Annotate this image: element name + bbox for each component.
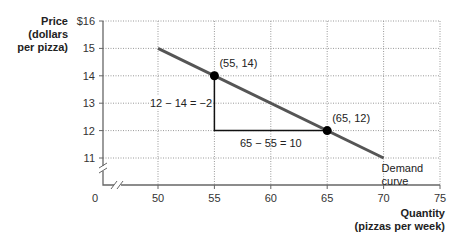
data-point: [210, 71, 219, 80]
x-tick-label: 60: [265, 192, 277, 204]
x-axis-title: Quantity: [400, 207, 445, 219]
data-point: [323, 126, 332, 135]
rise-label: 12 − 14 = −2: [150, 97, 212, 109]
point-label: (55, 14): [219, 57, 257, 69]
origin-label: 0: [92, 192, 98, 204]
y-tick-label: 15: [83, 42, 95, 54]
demand-curve-label: Demand: [382, 162, 424, 174]
y-tick-label: $16: [77, 15, 95, 27]
data-points: (55, 14)(65, 12): [210, 56, 374, 135]
y-tick-label: 12: [83, 125, 95, 137]
x-axis-title: (pizzas per week): [355, 220, 446, 232]
y-axis-title: Price: [41, 15, 68, 27]
x-tick-label: 75: [434, 192, 446, 204]
demand-curve-chart: 1112131415$165055606570750 12 − 14 = −26…: [0, 0, 469, 243]
run-label: 65 − 55 = 10: [240, 137, 302, 149]
y-tick-label: 13: [83, 97, 95, 109]
x-tick-label: 50: [152, 192, 164, 204]
axis-corner: [103, 171, 114, 185]
y-tick-label: 14: [83, 70, 95, 82]
y-axis-title: per pizza): [17, 41, 68, 53]
x-tick-label: 70: [377, 192, 389, 204]
y-tick-label: 11: [84, 152, 95, 164]
x-tick-label: 55: [208, 192, 220, 204]
demand-curve-label: curve: [382, 175, 409, 187]
point-label: (65, 12): [332, 112, 370, 124]
y-axis-title: (dollars: [28, 28, 68, 40]
x-tick-label: 65: [321, 192, 333, 204]
